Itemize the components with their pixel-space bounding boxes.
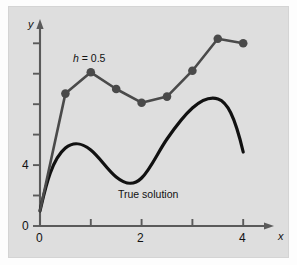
data-point bbox=[188, 66, 197, 75]
x-axis-arrow-icon bbox=[264, 222, 274, 229]
euler-data-points bbox=[61, 34, 247, 107]
euler-step-polyline bbox=[40, 39, 243, 211]
y-axis-arrow-icon bbox=[36, 19, 43, 29]
data-point bbox=[163, 92, 172, 101]
axes-group bbox=[33, 19, 274, 230]
data-point bbox=[61, 89, 70, 98]
x-axis-ticks bbox=[40, 219, 243, 226]
true-solution-curve bbox=[40, 98, 243, 211]
data-point bbox=[112, 85, 121, 94]
data-point bbox=[87, 68, 96, 77]
plot-canvas bbox=[0, 0, 297, 265]
data-point bbox=[239, 39, 248, 48]
figure-container: y x 0 4 0 2 4 h = 0.5 True solution bbox=[0, 0, 297, 265]
data-point bbox=[137, 98, 146, 107]
data-point bbox=[214, 34, 223, 43]
